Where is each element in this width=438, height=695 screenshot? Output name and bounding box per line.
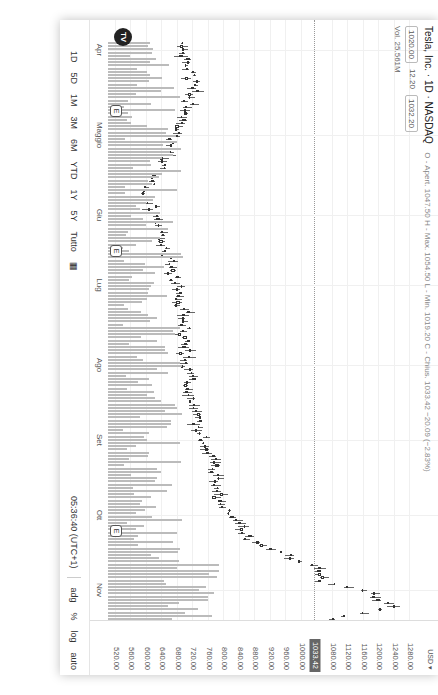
candle <box>216 490 218 492</box>
volume-bar <box>108 375 126 377</box>
price-label: 560.00 <box>127 647 136 670</box>
volume-bar <box>108 548 180 550</box>
candle-wick <box>177 129 180 130</box>
scale-option-adg[interactable]: adg <box>69 582 79 607</box>
candle <box>240 528 242 530</box>
range-ytd[interactable]: YTD <box>69 157 79 185</box>
price-label: 1240.00 <box>390 643 399 670</box>
candle <box>156 218 160 220</box>
candle <box>176 301 180 303</box>
volume-bar <box>108 266 164 268</box>
time-axis[interactable]: AprMaggioGiuLugAgoSetOttNov <box>90 20 108 620</box>
volume-bar <box>108 295 167 297</box>
candle <box>166 247 167 249</box>
candle <box>218 500 221 502</box>
volume-bar <box>108 432 149 434</box>
scale-option-percent[interactable]: % <box>69 607 79 625</box>
tradingview-logo[interactable]: TV <box>114 28 132 46</box>
calendar-icon[interactable]: ▦ <box>69 257 79 276</box>
price-axis[interactable]: USD ▾ 1280.001240.001200.001160.001120.0… <box>90 620 438 676</box>
candle <box>175 128 177 130</box>
candle <box>167 272 169 274</box>
volume-bar <box>108 352 169 354</box>
volume-bar <box>108 442 180 444</box>
grid-line <box>108 440 438 441</box>
price-label: 1280.00 <box>406 643 415 670</box>
candle <box>186 388 189 390</box>
volume-bar <box>108 192 125 194</box>
candle <box>173 260 175 262</box>
price-label: 920.00 <box>266 647 275 670</box>
candle <box>164 167 165 169</box>
candle <box>183 308 185 310</box>
range-3m[interactable]: 3M <box>69 112 79 135</box>
earnings-badge[interactable]: E <box>110 525 122 537</box>
candle <box>170 279 172 281</box>
candle <box>198 426 199 428</box>
range-tutto[interactable]: Tutto <box>69 227 79 257</box>
time-label: Maggio <box>95 122 104 148</box>
volume-bar <box>108 55 130 57</box>
volume-bar <box>108 407 177 409</box>
candle <box>187 340 191 342</box>
scale-option-auto[interactable]: auto <box>69 647 79 675</box>
volume-bar <box>108 576 217 578</box>
volume-bar <box>108 448 127 450</box>
candle <box>210 471 213 473</box>
range-1y[interactable]: 1Y <box>69 185 79 206</box>
grid-line <box>223 20 224 620</box>
symbol-title[interactable]: Tesla, Inc. · 1D · NASDAQ <box>423 26 434 144</box>
volume-bar <box>108 52 152 54</box>
currency-select[interactable]: USD ▾ <box>426 649 434 670</box>
grid-line <box>108 50 438 51</box>
candle <box>199 416 201 418</box>
candle <box>241 532 243 534</box>
candle <box>179 292 182 294</box>
volume-bar <box>108 138 125 140</box>
volume-bar <box>108 189 177 191</box>
price-plot[interactable]: EEE <box>90 20 438 620</box>
volume-bar <box>108 580 164 582</box>
volume-bar <box>108 388 127 390</box>
candle <box>192 103 194 105</box>
bid-price[interactable]: 1020.00 <box>405 26 418 63</box>
earnings-badge[interactable]: E <box>110 105 122 117</box>
candle <box>189 400 191 402</box>
volume-bar <box>108 237 160 239</box>
volume-bar <box>108 400 161 402</box>
scale-option-log[interactable]: log <box>69 625 79 647</box>
volume-bar <box>108 612 185 614</box>
candle <box>213 484 215 486</box>
earnings-badge[interactable]: E <box>110 245 122 257</box>
candle <box>193 407 194 409</box>
candle <box>212 496 216 498</box>
volume-bar <box>108 272 155 274</box>
volume-bar <box>108 471 162 473</box>
range-1m[interactable]: 1M <box>69 89 79 112</box>
volume-bar <box>108 480 155 482</box>
candle <box>154 183 155 185</box>
volume-bar <box>108 503 140 505</box>
candle <box>189 96 190 98</box>
spread: 12.20 <box>405 66 418 92</box>
candle <box>170 144 172 146</box>
range-5d[interactable]: 5D <box>69 68 79 90</box>
volume-bar <box>108 464 124 466</box>
candle <box>235 519 237 521</box>
volume-bar <box>108 199 153 201</box>
volume-bar <box>108 141 177 143</box>
range-5y[interactable]: 5Y <box>69 206 79 227</box>
volume-bar <box>108 490 167 492</box>
volume-bar <box>108 426 167 428</box>
volume-bar <box>108 410 165 412</box>
candle <box>269 548 272 550</box>
volume-bar <box>108 458 129 460</box>
candle <box>186 68 188 70</box>
ask-price[interactable]: 1032.20 <box>405 95 418 132</box>
range-1d[interactable]: 1D <box>69 46 79 68</box>
volume-bar <box>108 560 179 562</box>
volume-bar <box>108 234 126 236</box>
volume-bar <box>108 176 159 178</box>
range-6m[interactable]: 6M <box>69 134 79 157</box>
candle <box>185 106 187 108</box>
